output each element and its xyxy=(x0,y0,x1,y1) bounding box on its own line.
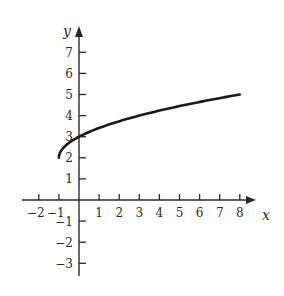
y-tick-label: 7 xyxy=(65,46,73,60)
x-tick-label: 8 xyxy=(236,206,244,220)
y-axis-arrow-icon xyxy=(75,26,83,37)
x-tick-label: 3 xyxy=(135,206,143,220)
y-axis-label: y xyxy=(62,23,72,39)
x-tick-label: 2 xyxy=(115,206,123,220)
x-axis-label: x xyxy=(262,207,270,223)
x-axis-arrow-icon xyxy=(246,196,256,204)
x-tick-label: −2 xyxy=(27,206,45,220)
x-tick-label: 7 xyxy=(216,206,224,220)
y-tick-label: 5 xyxy=(65,88,73,102)
y-tick-label: 4 xyxy=(65,109,73,123)
y-tick-label: −3 xyxy=(55,257,73,271)
function-graph: −2−112345678−3−2−11234567 x y xyxy=(0,0,284,296)
x-tick-label: 4 xyxy=(156,206,164,220)
y-tick-label: −1 xyxy=(55,215,73,229)
y-tick-label: 1 xyxy=(65,172,73,186)
function-curve xyxy=(59,95,240,158)
y-tick-label: 2 xyxy=(65,151,73,165)
x-tick-label: 1 xyxy=(95,206,103,220)
x-tick-label: 5 xyxy=(176,206,184,220)
x-tick-label: 6 xyxy=(196,206,204,220)
y-tick-label: 6 xyxy=(65,67,73,81)
y-tick-label: −2 xyxy=(55,236,73,250)
